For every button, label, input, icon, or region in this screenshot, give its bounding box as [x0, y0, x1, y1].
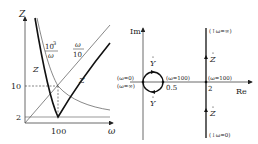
- line-top-label: (↑ω=∞): [209, 28, 232, 34]
- dot-accent-z-upper: [212, 52, 213, 53]
- x-tick-100: 100: [51, 127, 66, 136]
- right-plot: Im Re Y Y (ω=0) (ω=∞) (ω=100) 0.5 (↑ω=∞)…: [117, 27, 252, 140]
- circle-right-point: [162, 81, 165, 84]
- inverse-label-den: ω: [48, 52, 54, 60]
- circle-right-bottom: 0.5: [166, 84, 177, 92]
- line-arrow-upper: [204, 55, 208, 59]
- dot-accent-y-top: [152, 56, 153, 57]
- circle-arrow-bottom: [151, 90, 155, 94]
- circle-left-bottom: (ω=∞): [117, 83, 135, 89]
- circle-right-top: (ω=100): [166, 75, 190, 81]
- line-arrow-lower: [204, 108, 208, 112]
- z-label-upper: Z: [209, 55, 216, 64]
- linear-label-den: 10: [73, 51, 82, 59]
- diagram-canvas: Z ω 10 2 100 10 3 ω ω 10 Z Z Im Re Y Y (…: [0, 0, 258, 144]
- line-mid-point: [205, 81, 208, 84]
- circle-arrow-top: [151, 70, 155, 74]
- linear-label-num: ω: [75, 41, 81, 49]
- z-label-right: Z: [78, 76, 85, 85]
- x-axis-label: ω: [108, 126, 116, 136]
- z-label-lower: Z: [209, 109, 216, 118]
- y-tick-10: 10: [11, 82, 21, 91]
- y-axis-label: Z: [18, 9, 26, 19]
- circle-left-top: (ω=0): [117, 75, 134, 81]
- left-plot: Z ω 10 2 100 10 3 ω ω 10 Z Z: [11, 9, 116, 136]
- z-label-left: Z: [32, 65, 39, 74]
- y-label-top: Y: [150, 59, 156, 68]
- re-label: Re: [236, 87, 247, 96]
- line-bottom-label: (↓ω=0): [209, 132, 231, 138]
- dot-accent-z-lower: [212, 106, 213, 107]
- linear-curve: [25, 25, 110, 123]
- line-mid-bottom: 2: [208, 85, 212, 93]
- line-mid-top: (ω=100): [208, 75, 232, 81]
- circle-left-point: [142, 81, 145, 84]
- dot-accent-y-bottom: [152, 96, 153, 97]
- inverse-label-sup: 3: [53, 40, 56, 46]
- y-tick-2: 2: [16, 113, 21, 122]
- im-label: Im: [130, 27, 141, 36]
- z-curve: [35, 18, 110, 117]
- y-label-bottom: Y: [150, 99, 156, 108]
